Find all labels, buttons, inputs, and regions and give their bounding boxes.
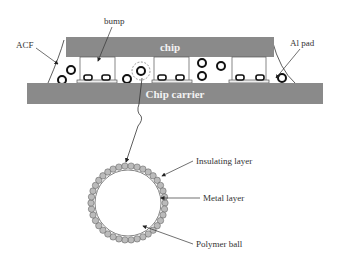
metal-label: Metal layer [203, 193, 244, 203]
acf-label: ACF [16, 40, 34, 50]
chip-block: chip [66, 37, 274, 57]
polymer-label: Polymer ball [196, 239, 243, 249]
carrier-label: Chip carrier [146, 88, 205, 100]
acf-diagram: chip Chip carrier bump [0, 0, 337, 263]
insulating-label: Insulating layer [196, 156, 252, 166]
al-pad-label: Al pad [290, 38, 315, 48]
carrier-block: Chip carrier [27, 83, 323, 104]
chip-label: chip [160, 41, 180, 53]
bump-label: bump [104, 16, 125, 26]
